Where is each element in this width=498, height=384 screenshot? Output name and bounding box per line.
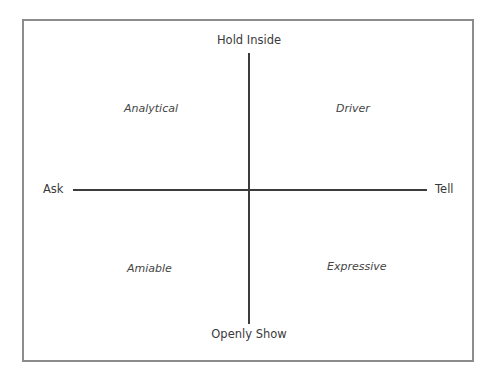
quadrant-label-amiable: Amiable bbox=[127, 262, 172, 276]
axis-label-ask: Ask bbox=[43, 182, 64, 196]
axis-label-tell: Tell bbox=[435, 182, 454, 196]
axis-label-hold-inside: Hold Inside bbox=[0, 33, 498, 47]
axis-label-openly-show: Openly Show bbox=[0, 327, 498, 341]
quadrant-label-driver: Driver bbox=[336, 102, 370, 116]
horizontal-axis-line bbox=[73, 189, 427, 191]
quadrant-label-expressive: Expressive bbox=[327, 260, 387, 274]
quadrant-label-analytical: Analytical bbox=[124, 102, 178, 116]
